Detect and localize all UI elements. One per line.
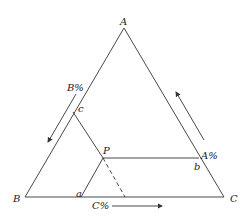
point-a-label: a [76,188,82,199]
line-p-c [73,112,103,158]
dashed-line-p [103,158,125,197]
line-p-a [81,158,103,197]
b-percent-label: B% [66,82,84,93]
vertex-c-label: C [230,193,238,204]
arrow-b-percent [48,94,76,142]
vertex-a-label: A [119,16,127,27]
a-percent-label: A% [200,150,218,161]
point-p-label: P [102,145,110,156]
ternary-diagram: A B C P a b c B% A% C% [0,0,249,220]
c-percent-label: C% [92,200,109,211]
arrow-a-percent [176,92,204,140]
point-c-label: c [78,103,84,114]
vertex-b-label: B [12,193,20,204]
point-b-label: b [194,161,200,172]
